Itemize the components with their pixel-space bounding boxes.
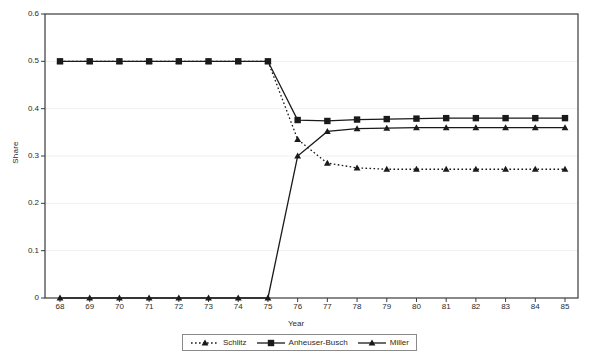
legend-swatch-triangle-icon [357, 338, 387, 348]
data-point-anheuser-busch [562, 115, 568, 121]
data-point-schlitz [443, 166, 450, 172]
data-point-schlitz [383, 166, 390, 172]
data-point-anheuser-busch [146, 58, 152, 64]
data-point-anheuser-busch [57, 58, 63, 64]
data-point-anheuser-busch [265, 58, 271, 64]
data-point-anheuser-busch [384, 116, 390, 122]
legend-swatch-square-icon [256, 338, 286, 348]
data-point-anheuser-busch [443, 115, 449, 121]
data-point-anheuser-busch [116, 58, 122, 64]
data-point-schlitz [502, 166, 509, 172]
legend-item-miller[interactable]: Miller [357, 338, 409, 348]
data-point-anheuser-busch [235, 58, 241, 64]
share-by-year-line-chart: Share Year 00.10.20.30.40.50.6 686970717… [0, 0, 592, 356]
data-point-anheuser-busch [473, 115, 479, 121]
data-point-anheuser-busch [532, 115, 538, 121]
data-point-schlitz [294, 136, 301, 142]
legend-label: Anheuser-Busch [289, 338, 348, 347]
data-point-anheuser-busch [502, 115, 508, 121]
data-point-anheuser-busch [413, 115, 419, 121]
series-line-anheuser-busch [60, 61, 565, 121]
data-point-anheuser-busch [354, 116, 360, 122]
data-point-anheuser-busch [176, 58, 182, 64]
legend-item-schlitz[interactable]: Schlitz [190, 338, 247, 348]
data-point-anheuser-busch [87, 58, 93, 64]
chart-legend: SchlitzAnheuser-BuschMiller [182, 334, 417, 351]
legend-label: Schlitz [223, 338, 247, 347]
data-point-anheuser-busch [294, 117, 300, 123]
series-line-miller [60, 128, 565, 298]
legend-label: Miller [390, 338, 409, 347]
data-point-schlitz [324, 160, 331, 166]
legend-swatch-triangle-icon [190, 338, 220, 348]
data-point-anheuser-busch [324, 118, 330, 124]
plot-area [0, 0, 592, 356]
data-point-anheuser-busch [205, 58, 211, 64]
legend-item-anheuser-busch[interactable]: Anheuser-Busch [256, 338, 348, 348]
series-line-schlitz [60, 61, 565, 169]
